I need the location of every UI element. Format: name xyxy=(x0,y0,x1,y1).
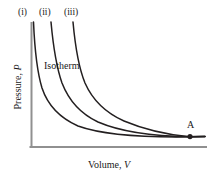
y-axis-title: Pressure, P xyxy=(13,47,23,127)
point-a-label: A xyxy=(187,120,194,130)
curve-label-i: (i) xyxy=(18,8,27,18)
curve-label-ii: (ii) xyxy=(39,8,51,18)
x-axis-title: Volume, V xyxy=(0,160,218,170)
pv-isotherm-figure: (i) (ii) (iii) Isotherm A Volume, V Pres… xyxy=(0,0,218,176)
curve-label-iii: (iii) xyxy=(64,8,78,18)
y-axis-title-text: Pressure, xyxy=(12,71,23,110)
curve-i-path xyxy=(34,22,206,137)
y-axis-title-symbol: P xyxy=(12,65,23,71)
point-a-marker xyxy=(187,134,192,139)
isotherm-annotation: Isotherm xyxy=(44,61,80,71)
x-axis-title-symbol: V xyxy=(124,159,130,170)
x-axis-title-text: Volume, xyxy=(88,159,124,170)
curve-ii-path xyxy=(51,22,205,137)
plot-canvas xyxy=(0,0,218,176)
